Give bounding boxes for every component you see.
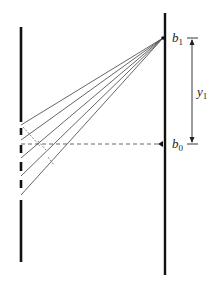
ray-2 bbox=[21, 38, 163, 140]
label-b0: b0 bbox=[172, 136, 184, 153]
arrowhead-down-icon bbox=[190, 137, 195, 143]
ray-3 bbox=[21, 38, 163, 158]
rays bbox=[21, 38, 163, 195]
label-b1: b1 bbox=[172, 30, 183, 47]
point-b1 bbox=[161, 36, 165, 40]
ray-1 bbox=[21, 38, 163, 125]
ray-4 bbox=[21, 38, 163, 176]
arrowhead-up-icon bbox=[190, 39, 195, 45]
point-b0-arrow bbox=[158, 141, 163, 147]
diagram-canvas: b1 b0 y1 bbox=[0, 0, 218, 281]
label-y1: y1 bbox=[195, 84, 207, 101]
ray-5 bbox=[21, 38, 163, 195]
